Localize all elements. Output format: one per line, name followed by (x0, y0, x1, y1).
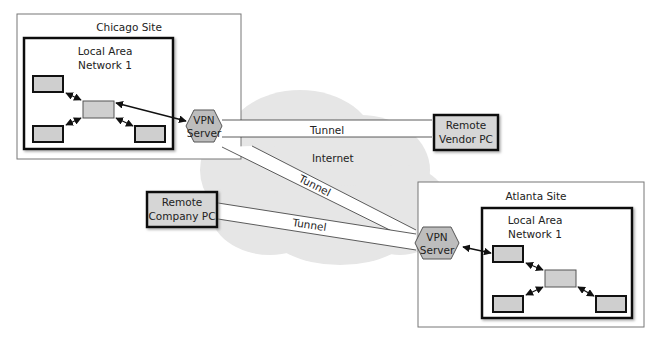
atlanta-host-2 (493, 296, 523, 312)
remote-vendor-label-line1: Remote (446, 119, 487, 131)
remote-vendor-label-line2: Vendor PC (439, 133, 493, 145)
tunnel-label-vendor: Tunnel (309, 124, 344, 136)
remote-company-label-line2: Company PC (149, 210, 216, 222)
chicago-vpn-label-line1: VPN (193, 114, 214, 126)
atlanta-switch (545, 270, 576, 287)
atlanta-site-label: Atlanta Site (505, 190, 566, 202)
remote-company-label-line1: Remote (162, 196, 203, 208)
atlanta-lan-label-line2: Network 1 (508, 228, 562, 240)
internet-label: Internet (312, 152, 354, 164)
chicago-host-1 (33, 76, 63, 92)
chicago-switch (83, 101, 114, 118)
atlanta-host-3 (596, 296, 626, 312)
vpn-diagram: Internet Chicago Site Local Area Network… (0, 0, 654, 341)
chicago-site-label: Chicago Site (96, 21, 162, 33)
chicago-lan-label-line1: Local Area (78, 45, 133, 57)
atlanta-host-1 (493, 246, 523, 262)
atlanta-lan-label-line1: Local Area (508, 214, 563, 226)
chicago-host-2 (33, 126, 63, 142)
atlanta-vpn-label-line1: VPN (426, 231, 447, 243)
atlanta-vpn-label-line2: Server (420, 244, 455, 256)
chicago-host-3 (135, 126, 165, 142)
chicago-vpn-label-line2: Server (187, 127, 222, 139)
chicago-lan-label-line2: Network 1 (78, 59, 132, 71)
